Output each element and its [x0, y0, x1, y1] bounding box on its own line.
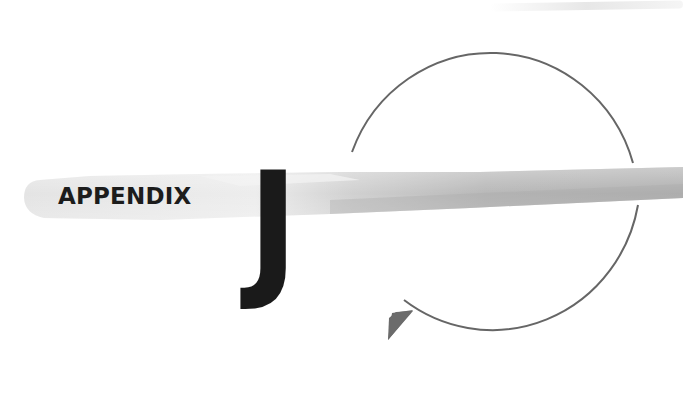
arc-lower: [404, 205, 638, 330]
appendix-label: APPENDIX: [58, 183, 191, 209]
arc-upper: [352, 53, 633, 163]
appendix-letter: J: [248, 152, 298, 302]
